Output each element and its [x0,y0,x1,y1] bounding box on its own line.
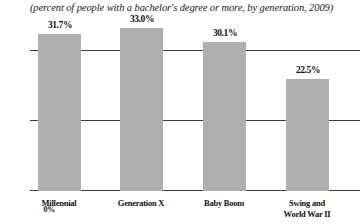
x-label-generation-x-line1: Generation X [118,198,164,208]
bar-value-baby-boom: 30.1% [190,28,260,38]
x-label-baby-boom-line1: Baby Boom [204,198,244,208]
bar-value-generation-x: 33.0% [107,14,177,24]
x-label-millennial-line1: Millennial [42,198,77,208]
x-label-swing-wwii-line2: World War II [259,209,355,220]
x-label-baby-boom: Baby Boom [176,198,272,209]
x-label-generation-x: Generation X [93,198,189,209]
plot-area: 30% 15% 0% 31.7% 33.0% 30.1% 22.5% [30,20,360,191]
x-label-swing-wwii-line1: Swing and [289,198,325,208]
bar-value-swing-wwii: 22.5% [273,65,343,75]
bar-baby-boom [203,42,246,191]
chart-subtitle: (percent of people with a bachelor's deg… [0,1,363,15]
x-label-swing-wwii: Swing and World War II [259,198,355,219]
bar-swing-wwii [286,79,329,191]
bar-chart: (percent of people with a bachelor's deg… [0,0,363,224]
bar-value-millennial: 31.7% [25,20,95,30]
bar-generation-x [120,28,163,191]
bar-millennial [38,34,81,191]
